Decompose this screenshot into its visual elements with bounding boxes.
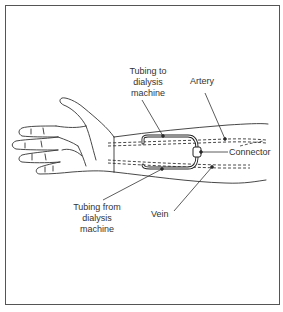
finger-middle bbox=[12, 137, 58, 150]
label-tubing-to-dialysis-machine: Tubing to dialysis machine bbox=[113, 66, 183, 99]
finger-ring bbox=[19, 150, 60, 163]
label-tubing-from-dialysis-machine: Tubing from dialysis machine bbox=[62, 202, 132, 235]
finger-index bbox=[19, 126, 58, 137]
forearm-lower-outline bbox=[114, 172, 266, 183]
artery-vessel bbox=[108, 139, 266, 143]
leader-vein bbox=[174, 167, 212, 211]
label-artery: Artery bbox=[190, 76, 214, 87]
label-vein: Vein bbox=[151, 209, 169, 220]
leader-tubing-to bbox=[142, 100, 163, 136]
thumb-outline bbox=[60, 98, 114, 137]
label-connector: Connector bbox=[229, 147, 271, 158]
leader-artery bbox=[205, 93, 225, 139]
leader-tubing-from bbox=[103, 169, 162, 200]
finger-little bbox=[36, 162, 114, 174]
